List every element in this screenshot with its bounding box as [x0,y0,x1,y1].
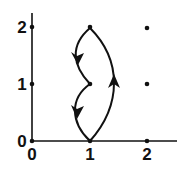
grid-point [145,26,150,31]
x-tick-label-0: 0 [27,145,36,164]
y-tick-label-0: 0 [17,132,26,151]
grid-point [30,82,35,87]
y-tick-label-2: 2 [17,18,26,37]
grid-point [88,139,93,144]
grid-point [88,82,93,87]
x-tick-label-1: 1 [85,145,94,164]
grid-point [145,139,150,144]
grid-point [30,25,35,30]
y-tick-label-1: 1 [17,75,26,94]
lattice-diagram: 2 1 0 0 1 2 [0,0,187,172]
grid-point [30,139,35,144]
grid-point [88,25,93,30]
x-tick-label-2: 2 [142,145,151,164]
arrow-down-icon [71,52,84,65]
grid-point [145,82,150,87]
arrow-down-icon [71,105,84,119]
